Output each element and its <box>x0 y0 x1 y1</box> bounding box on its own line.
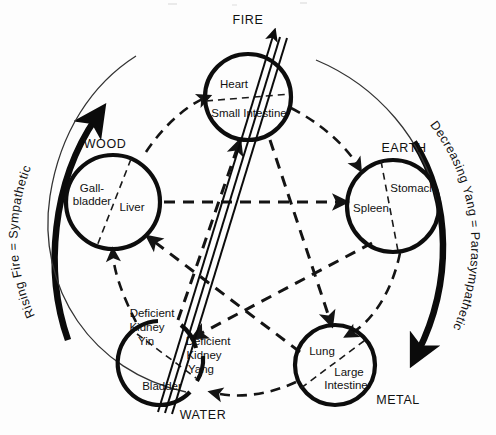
water-yang-line3: Yang <box>188 363 214 375</box>
wood-yang-organ-line1: Gall- <box>80 182 104 194</box>
metal-circle[interactable] <box>295 325 375 405</box>
earth-yin-organ: Spleen <box>353 202 389 214</box>
fire-element-label: FIRE <box>233 13 264 27</box>
earth-yang-organ: Stomach <box>390 182 435 194</box>
rising-fire-label: Rising Fire = Sympathetic <box>6 163 37 320</box>
metal-element-label: METAL <box>376 393 420 407</box>
five-element-diagram: Gall- bladder Liver WOOD Heart Small Int… <box>0 0 496 435</box>
diagram-canvas: Gall- bladder Liver WOOD Heart Small Int… <box>0 0 496 435</box>
phase-metal[interactable]: Lung Large Intestine METAL <box>295 325 420 407</box>
water-yin-line3: Yin <box>138 335 154 347</box>
earth-element-label: EARTH <box>381 141 426 155</box>
wood-yang-organ-line2: bladder <box>73 195 112 207</box>
water-yin-line2: Kidney <box>129 321 164 333</box>
fire-divider <box>206 94 290 101</box>
wood-element-label: WOOD <box>84 137 127 151</box>
scan-artifacts <box>168 2 307 6</box>
rising-fire-triple-line <box>158 36 287 414</box>
water-yin-line1: Deficient <box>130 307 176 319</box>
fire-yin-organ: Heart <box>220 78 249 90</box>
wood-yin-organ: Liver <box>120 201 145 213</box>
rising-fire-label-group: Rising Fire = Sympathetic <box>6 163 37 320</box>
water-extra-organ: Bladder <box>142 380 182 392</box>
metal-yin-organ: Lung <box>309 345 335 357</box>
generating-cycle-arcs <box>113 98 400 395</box>
controlling-cycle-lines <box>152 140 372 352</box>
metal-yang-organ-line2: Intestine <box>324 379 367 391</box>
metal-yang-organ-line1: Large <box>334 366 363 378</box>
water-element-label: WATER <box>180 408 227 422</box>
phase-wood[interactable]: Gall- bladder Liver WOOD <box>66 137 160 249</box>
